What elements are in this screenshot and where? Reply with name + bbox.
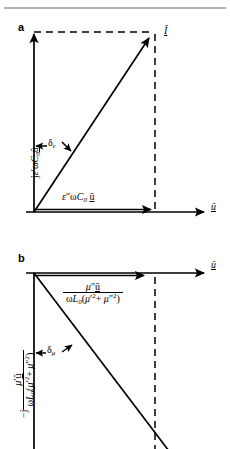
panel-b-vertical-axis-label: −j μ′û ωL0(μ′2+ μ″2) bbox=[12, 350, 38, 418]
panel-a-reference-axis-label: û bbox=[211, 202, 216, 213]
panel-b-horizontal-component-label: μ″û ωL0(μ′2+ μ″2) bbox=[63, 281, 123, 307]
panel-a-horizontal-component-label: ε″ωC0 û bbox=[62, 192, 94, 204]
panel-b-letter: b bbox=[18, 253, 25, 264]
panel-a-graphics bbox=[26, 32, 204, 212]
panel-a-vertical-axis-label: jε′ωC0û bbox=[30, 147, 42, 178]
panel-b-angle-pointer-right bbox=[62, 345, 72, 352]
panel-a-resultant-label: Î bbox=[164, 26, 167, 37]
panel-a-angle-label: δε bbox=[48, 138, 55, 150]
panel-a-angle-pointer-right bbox=[62, 142, 71, 151]
panel-a-letter: a bbox=[18, 22, 24, 33]
panel-a-resultant-arrow bbox=[34, 38, 149, 212]
panel-b-angle-label: δμ bbox=[47, 345, 55, 357]
panel-b-reference-axis-label: û bbox=[211, 260, 216, 271]
phasor-figure: a jε′ωC0û ε″ωC0 û δε Î û b û μ″û ωL0(μ′2… bbox=[0, 0, 230, 449]
